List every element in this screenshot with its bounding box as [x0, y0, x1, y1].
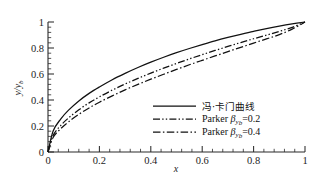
- x-tick-label: 0.6: [196, 155, 209, 166]
- y-tick-label: 0.4: [31, 95, 45, 106]
- y-tick-label: 0.2: [31, 121, 44, 132]
- legend-label-parker-04-suffix: =0.4: [242, 126, 260, 137]
- x-tick-label: 1: [302, 155, 307, 166]
- y-axis-title-subscript: b: [17, 80, 25, 84]
- chart-page: 00.20.40.60.81 00.20.40.60.81 x y/yb 冯·卡…: [0, 0, 326, 181]
- y-tick-label: 0.8: [31, 43, 44, 54]
- x-tick-label: 0.2: [93, 155, 106, 166]
- x-axis-title: x: [173, 163, 179, 174]
- y-tick-label: 0: [39, 147, 44, 158]
- x-tick-label: 0.8: [247, 155, 260, 166]
- y-tick-label: 0.6: [31, 69, 44, 80]
- legend-label-parker-04-prefix: Parker: [202, 126, 231, 137]
- y-axis-title-main: y/y: [12, 83, 23, 96]
- legend-label-parker-02-prefix: Parker: [202, 113, 231, 124]
- legend-label-von-karman: 冯·卡门曲线: [202, 101, 255, 112]
- y-tick-label: 1: [39, 17, 44, 28]
- line-chart: 00.20.40.60.81 00.20.40.60.81 x y/yb 冯·卡…: [0, 0, 326, 181]
- x-tick-label: 0.4: [144, 155, 158, 166]
- legend-label-parker-02-suffix: =0.2: [242, 113, 260, 124]
- x-tick-label: 0: [45, 155, 50, 166]
